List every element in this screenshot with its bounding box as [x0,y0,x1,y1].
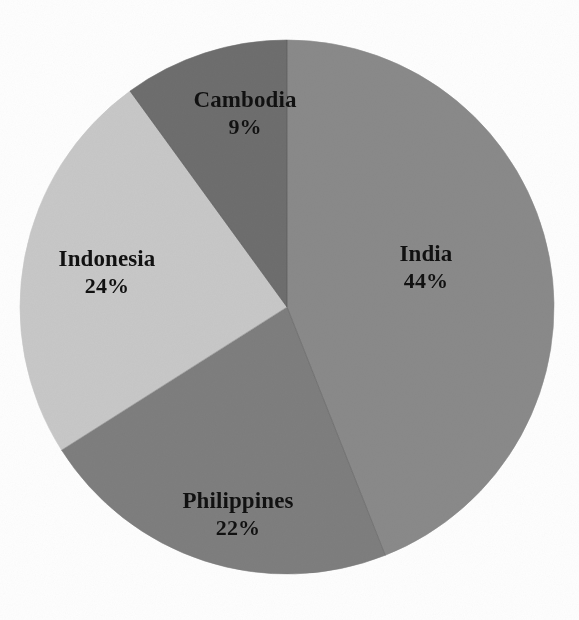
slice-label-india-name: India [356,240,496,267]
slice-label-indonesia: Indonesia 24% [12,245,202,299]
slice-label-cambodia-name: Cambodia [152,86,338,113]
slice-label-india: India 44% [356,240,496,294]
slice-label-cambodia-value: 9% [152,114,338,140]
slice-label-philippines-name: Philippines [130,487,346,514]
pie-chart-figure: India 44% Philippines 22% Indonesia 24% … [0,0,579,620]
slice-label-philippines-value: 22% [130,515,346,541]
slice-label-indonesia-name: Indonesia [12,245,202,272]
slice-label-cambodia: Cambodia 9% [152,86,338,140]
slice-label-indonesia-value: 24% [12,273,202,299]
slice-label-philippines: Philippines 22% [130,487,346,541]
slice-label-india-value: 44% [356,268,496,294]
